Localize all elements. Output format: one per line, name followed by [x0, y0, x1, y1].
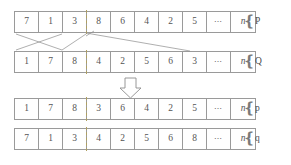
cell-P-7: 5 [183, 12, 207, 32]
cell-p-2: 8 [63, 99, 87, 119]
permutation-crossover-figure: 7 1 3 8 6 4 2 5 ⋯ n ❴ P 1 7 8 4 2 5 6 3 … [0, 0, 291, 165]
cell-p-1: 7 [39, 99, 63, 119]
cell-Q-3: 4 [87, 52, 111, 72]
array-row-Q: 1 7 8 4 2 5 6 3 ⋯ n [14, 51, 256, 73]
mapping-line-2 [16, 34, 62, 50]
array-row-q: 7 1 3 4 2 5 6 8 ⋯ n [14, 128, 256, 150]
mapping-line-3 [62, 34, 86, 50]
cell-P-5: 4 [135, 12, 159, 32]
cell-P-ellipsis: ⋯ [207, 12, 231, 32]
cell-q-4: 2 [111, 129, 135, 149]
cell-q-0: 7 [15, 129, 39, 149]
mapping-line-1 [16, 34, 62, 50]
cell-Q-5: 5 [135, 52, 159, 72]
cell-q-7: 8 [183, 129, 207, 149]
cell-P-1: 1 [39, 12, 63, 32]
mapping-line-4 [86, 33, 190, 51]
array-row-P: 7 1 3 8 6 4 2 5 ⋯ n [14, 11, 256, 33]
cell-Q-1: 7 [39, 52, 63, 72]
cell-Q-4: 2 [111, 52, 135, 72]
cell-p-4: 6 [111, 99, 135, 119]
cell-p-5: 4 [135, 99, 159, 119]
cell-p-3: 3 [87, 99, 111, 119]
cut-separator-Q [86, 50, 87, 74]
row-label-p: p [255, 103, 260, 113]
row-label-q: q [255, 133, 260, 143]
cell-Q-ellipsis: ⋯ [207, 52, 231, 72]
cell-q-1: 1 [39, 129, 63, 149]
array-row-p: 1 7 8 3 6 4 2 5 ⋯ n [14, 98, 256, 120]
cell-P-3: 8 [87, 12, 111, 32]
cell-p-0: 1 [15, 99, 39, 119]
transform-arrow-icon [120, 78, 141, 98]
cut-separator-p [86, 97, 87, 121]
cut-separator-P [86, 10, 87, 34]
cut-separator-q [86, 127, 87, 151]
cell-P-0: 7 [15, 12, 39, 32]
cell-p-6: 2 [159, 99, 183, 119]
cell-Q-7: 3 [183, 52, 207, 72]
row-label-P: P [255, 16, 260, 26]
cell-q-6: 6 [159, 129, 183, 149]
cell-P-2: 3 [63, 12, 87, 32]
cell-p-7: 5 [183, 99, 207, 119]
cell-Q-0: 1 [15, 52, 39, 72]
cell-Q-2: 8 [63, 52, 87, 72]
cell-P-6: 2 [159, 12, 183, 32]
row-label-Q: Q [255, 56, 262, 66]
cell-Q-6: 6 [159, 52, 183, 72]
cell-P-4: 6 [111, 12, 135, 32]
cell-q-ellipsis: ⋯ [207, 129, 231, 149]
cell-q-3: 4 [87, 129, 111, 149]
cell-q-5: 5 [135, 129, 159, 149]
cell-p-ellipsis: ⋯ [207, 99, 231, 119]
cell-q-2: 3 [63, 129, 87, 149]
